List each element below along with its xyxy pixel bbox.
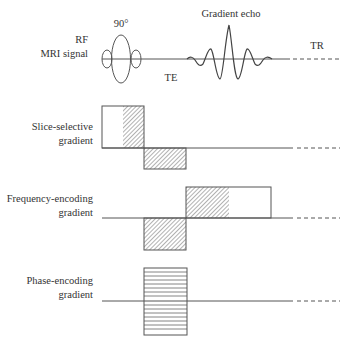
gradient-echo-label: Gradient echo — [201, 8, 260, 19]
frequency-encoding-row: Frequency-encoding gradient — [7, 187, 340, 250]
slice-selective-row: Slice-selective gradient — [32, 106, 340, 169]
rf-label: RF — [75, 34, 88, 45]
freq-label-line1: Frequency-encoding — [7, 193, 94, 204]
rf-row: RF MRI signal 90° TE Gradient echo TR — [40, 8, 340, 83]
freq-dephase-lobe — [144, 218, 186, 250]
tr-label: TR — [310, 40, 323, 51]
slice-label-line2: gradient — [59, 135, 93, 146]
phase-label-line1: Phase-encoding — [27, 275, 94, 286]
te-label: TE — [165, 72, 178, 83]
mri-signal-label: MRI signal — [40, 48, 88, 59]
phase-encoding-row: Phase-encoding gradient — [27, 268, 340, 335]
flip-angle-label: 90° — [114, 18, 129, 29]
slice-label-line1: Slice-selective — [32, 121, 94, 132]
pulse-sequence-diagram: RF MRI signal 90° TE Gradient echo TR Sl… — [0, 0, 349, 347]
slice-rephase-lobe — [144, 148, 186, 169]
freq-label-line2: gradient — [59, 207, 93, 218]
phase-label-line2: gradient — [59, 289, 93, 300]
gradient-echo-waveform — [187, 25, 272, 79]
